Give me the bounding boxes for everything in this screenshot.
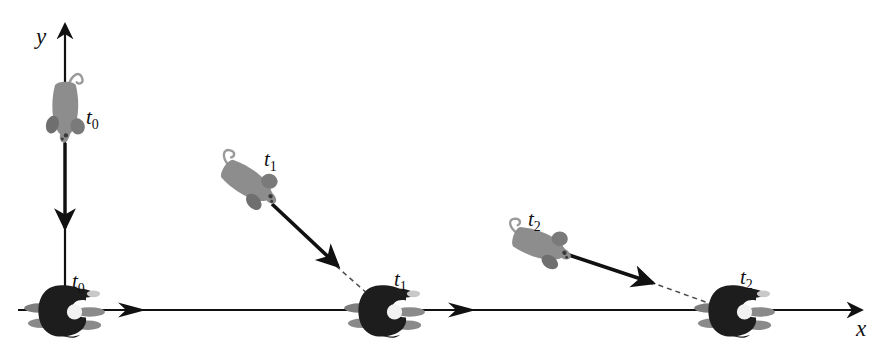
mouse-t0-label-sub: 0 [92,117,99,132]
mouse-t0-label: t0 [86,105,99,132]
mouse-t2-label: t2 [528,207,541,234]
owl-t1 [344,285,425,338]
mouse-t2-label-sub: 2 [534,219,541,234]
owl-t1-label: t1 [394,267,407,294]
owl-t2-label: t2 [740,265,753,292]
mouse-t1-label: t1 [264,147,277,174]
owl-t0-label-sub: 0 [78,281,85,296]
vector-t1 [272,204,338,266]
figure-root: y x t0 t0 [0,0,884,358]
instant-group-t1: t1 t1 [206,144,425,338]
vector-t2-dashed [650,282,714,305]
owl-t1-label-sub: 1 [400,279,407,294]
owl-t0 [24,285,105,338]
owl-t0-label: t0 [72,269,85,296]
instant-group-t0: t0 t0 [24,74,105,338]
vector-t2 [566,254,653,283]
y-axis-label: y [34,24,47,49]
x-axis-label: x [855,316,867,341]
owl-t2-label-sub: 2 [746,277,753,292]
mouse-t0 [44,74,87,143]
diagram-canvas: y x t0 t0 [0,0,884,358]
mouse-t1-label-sub: 1 [270,159,277,174]
instant-group-t2: t2 t2 [499,207,775,338]
owl-t2 [694,285,775,338]
